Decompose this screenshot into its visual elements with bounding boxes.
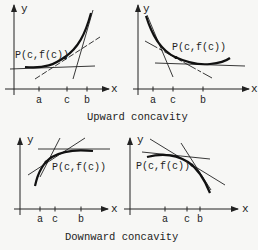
panel-downward-decreasing: y x a c b P(c,f(c)) xyxy=(124,134,249,225)
panel-upward-increasing: y x a c b P(c,f(c)) xyxy=(5,3,118,106)
tick-label-a: a xyxy=(162,214,168,225)
tick-label-c: c xyxy=(52,214,58,225)
steep-tangent xyxy=(73,10,93,79)
tick-label-b: b xyxy=(200,95,206,106)
point-label: P(c,f(c)) xyxy=(172,42,226,53)
concave-up-curve xyxy=(146,16,230,64)
x-axis-label: x xyxy=(251,83,258,95)
tick-label-c: c xyxy=(184,214,190,225)
point-label: P(c,f(c)) xyxy=(15,50,69,61)
point-label: P(c,f(c)) xyxy=(52,162,106,173)
x-axis-label: x xyxy=(242,203,249,215)
concavity-figure: y x a c b P(c,f(c)) y x a c b P(c,f( xyxy=(0,0,258,250)
x-axis-label: x xyxy=(111,203,118,215)
y-axis-label: y xyxy=(21,3,28,15)
caption-downward-concavity: Downward concavity xyxy=(65,231,178,243)
point-p xyxy=(174,56,177,59)
tick-label-b: b xyxy=(197,214,203,225)
panel-downward-increasing: y x a c b P(c,f(c)) xyxy=(14,134,118,225)
tick-label-c: c xyxy=(170,95,176,106)
tick-label-a: a xyxy=(37,214,43,225)
y-axis-label: y xyxy=(143,3,150,15)
point-label: P(c,f(c)) xyxy=(136,161,190,172)
y-axis-label: y xyxy=(27,134,34,146)
point-p xyxy=(45,161,48,164)
caption-upward-concavity: Upward concavity xyxy=(87,111,188,123)
x-axis-label: x xyxy=(111,83,118,95)
tick-label-a: a xyxy=(150,95,156,106)
y-axis-label: y xyxy=(137,134,144,146)
tick-label-a: a xyxy=(36,95,42,106)
tick-label-b: b xyxy=(78,214,84,225)
tick-label-b: b xyxy=(84,95,90,106)
point-p xyxy=(191,164,194,167)
panel-upward-decreasing: y x a c b P(c,f(c)) xyxy=(133,3,258,106)
tick-label-c: c xyxy=(64,95,70,106)
